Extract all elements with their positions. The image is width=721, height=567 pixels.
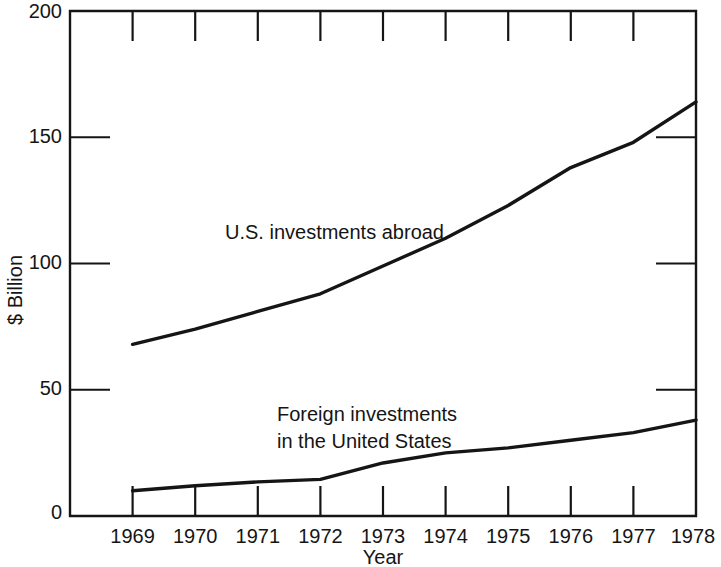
ytick-label-50: 50 (40, 377, 62, 399)
left-axis-ticks (70, 137, 110, 390)
series-label-us-investments-abroad: U.S. investments abroad (225, 221, 444, 243)
xtick-label-1971: 1971 (236, 525, 281, 547)
top-axis-ticks (133, 11, 634, 41)
xtick-label-1973: 1973 (361, 525, 406, 547)
ytick-label-150: 150 (29, 125, 62, 147)
xtick-label-1975: 1975 (486, 525, 531, 547)
chart-figure: 200 150 100 50 0 $ Billion 1969 1970 197… (0, 0, 721, 567)
y-axis-title: $ Billion (4, 255, 26, 325)
ytick-label-200: 200 (29, 0, 62, 22)
x-axis-title: Year (363, 546, 404, 567)
ytick-label-0: 0 (51, 501, 62, 523)
xtick-label-1970: 1970 (173, 525, 218, 547)
series-label-foreign-investments-line1: Foreign investments (277, 403, 457, 425)
xtick-label-1978: 1978 (671, 525, 716, 547)
xtick-label-1972: 1972 (298, 525, 343, 547)
right-axis-ticks (656, 137, 696, 390)
ytick-label-100: 100 (29, 251, 62, 273)
series-label-foreign-investments-line2: in the United States (277, 430, 452, 452)
bottom-axis-ticks (133, 486, 634, 516)
line-chart: 200 150 100 50 0 $ Billion 1969 1970 197… (0, 0, 721, 567)
xtick-label-1977: 1977 (611, 525, 656, 547)
xtick-label-1969: 1969 (110, 525, 155, 547)
xtick-label-1976: 1976 (549, 525, 594, 547)
xtick-label-1974: 1974 (423, 525, 468, 547)
